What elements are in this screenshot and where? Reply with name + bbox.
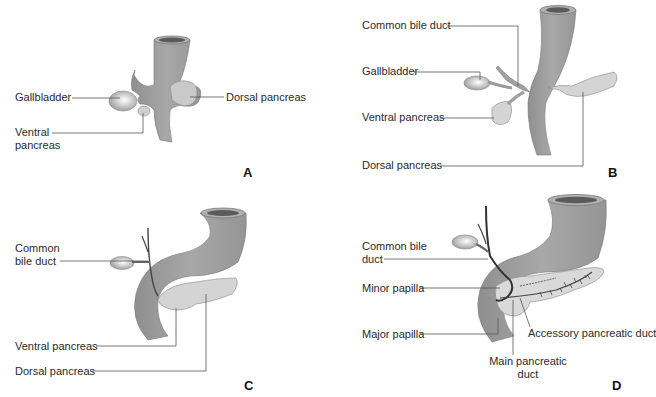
label-common-bile-duct-line2: bile duct	[15, 255, 56, 268]
panel-letter-d: D	[612, 378, 621, 393]
label-common-bile-duct-line2: duct	[362, 253, 383, 266]
panel-a-drawing	[52, 36, 224, 142]
label-gallbladder: Gallbladder	[362, 65, 418, 78]
label-accessory-pancreatic-duct: Accessory pancreatic duct	[528, 327, 656, 340]
label-main-pancreatic-duct-line2: duct	[488, 368, 568, 381]
label-major-papilla: Major papilla	[362, 328, 424, 341]
panel-letter-c: C	[244, 378, 253, 393]
label-ventral-pancreas: Ventral	[15, 126, 49, 139]
label-main-pancreatic-duct: Main pancreatic	[488, 355, 568, 368]
label-ventral-pancreas: Ventral pancreas	[362, 111, 445, 124]
label-dorsal-pancreas: Dorsal pancreas	[15, 365, 95, 378]
label-ventral-pancreas: Ventral pancreas	[15, 340, 98, 353]
label-minor-papilla: Minor papilla	[362, 282, 424, 295]
label-common-bile-duct: Common	[15, 242, 60, 255]
label-dorsal-pancreas: Dorsal pancreas	[226, 91, 306, 104]
label-gallbladder: Gallbladder	[15, 91, 71, 104]
label-ventral-pancreas-line2: pancreas	[15, 139, 60, 152]
label-dorsal-pancreas: Dorsal pancreas	[362, 159, 442, 172]
label-common-bile-duct: Common bile	[362, 240, 427, 253]
label-common-bile-duct: Common bile duct	[362, 19, 451, 32]
panel-letter-a: A	[243, 165, 252, 180]
panel-letter-b: B	[608, 165, 617, 180]
